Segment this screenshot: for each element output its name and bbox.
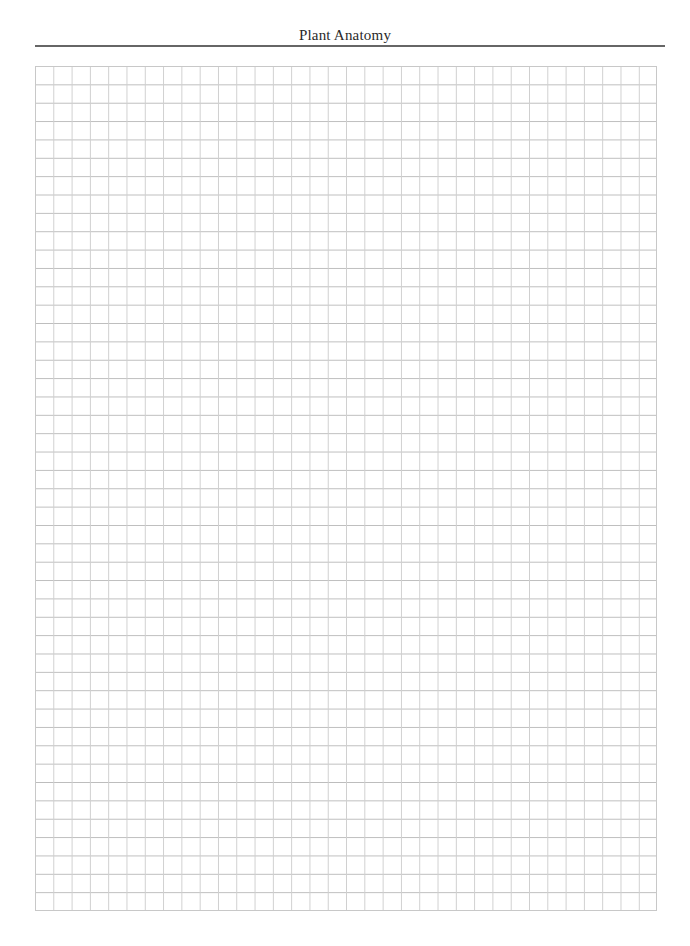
graph-paper-grid (35, 66, 657, 911)
page-title: Plant Anatomy (0, 27, 690, 44)
header-divider (35, 45, 665, 47)
